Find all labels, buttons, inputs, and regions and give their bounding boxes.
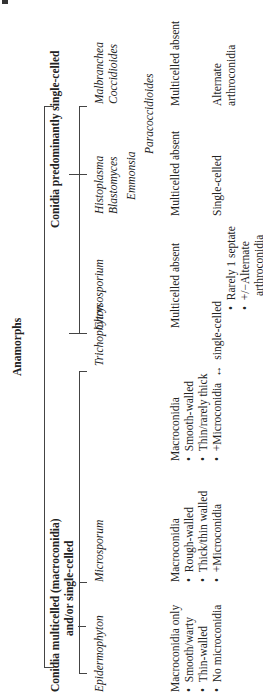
chrysosporium-desc-2: • Rarely 1 septate: [224, 226, 238, 310]
epidermophyton-desc-0: Macroconidia only: [168, 605, 182, 692]
genus-paracoccidioides: Paracoccidioides: [142, 74, 156, 154]
group2-stem-left: [69, 333, 79, 334]
microsporum-desc-2: • Thick/thin walled: [196, 491, 210, 582]
epidermophyton-desc-2: • Thin-walled: [196, 626, 210, 692]
group1-tick-epidermophyton: [79, 673, 87, 674]
genus-epidermophyton: Epidermophyton: [92, 615, 106, 692]
group1-tick-trichophyton: [79, 371, 87, 372]
histoplasma-group-desc-1: Single-celled: [210, 155, 224, 216]
group2-tick-histoplasma: [79, 174, 87, 175]
rotated-diagram-page: Anamorphs Conidia multicelled (macroconi…: [0, 0, 263, 694]
group1-label-line2: and/or single-celled: [62, 541, 76, 636]
trichophyton-desc-3: • +Microconidia ↔ single-celled: [210, 301, 224, 461]
malbranchea-group-desc-0: Multicelled absent: [168, 21, 182, 106]
group1-bracket-line: [79, 371, 80, 674]
trichophyton-desc-2: • Thin/rarely thick: [196, 374, 210, 461]
microsporum-desc-3: • +Microconidia: [210, 504, 224, 582]
microsporum-desc-0: Macroconidia: [168, 518, 182, 582]
trichophyton-desc-0: Macroconidia: [168, 397, 182, 461]
trichophyton-desc-1: • Smooth-walled: [182, 381, 196, 461]
chrysosporium-desc-3: • +/−Alternate: [238, 241, 252, 310]
genus-malbranchea: Malbranchea: [92, 42, 106, 104]
group2-bracket-line: [79, 106, 80, 334]
epidermophyton-desc-3: • No microconidia: [210, 605, 224, 692]
group2-tick-malbranchea: [79, 106, 87, 107]
genus-blastomyces: Blastomyces: [106, 157, 120, 214]
histoplasma-group-desc-0: Multicelled absent: [168, 131, 182, 216]
chrysosporium-desc-0: Multicelled absent: [168, 243, 182, 328]
group2-mid-stem: [69, 174, 79, 175]
group1-tick-microsporum: [79, 582, 87, 583]
genus-chrysosporium: Chrysosporium: [92, 259, 106, 330]
chrysosporium-desc-4: arthroconidia: [252, 235, 263, 296]
genus-histoplasma: Histoplasma: [92, 156, 106, 214]
epidermophyton-desc-1: • Smooth/warty: [182, 617, 196, 692]
page-corner-mark: [2, 0, 8, 4]
bidirectional-arrow-icon: ↔: [211, 366, 223, 378]
group1-label-line1: Conidia multicelled (macroconidia): [48, 518, 62, 692]
genus-emmonsia: Emmonsia: [124, 151, 138, 200]
group2-tick-chrysosporium: [79, 333, 87, 334]
genus-coccidioides: Coccidioides: [106, 44, 120, 104]
root-label: Anamorphs: [10, 318, 24, 376]
genus-microsporum: Microsporum: [92, 520, 106, 582]
malbranchea-group-desc-1: Alternate: [210, 63, 224, 106]
microsporum-desc-1: • Rough-walled: [182, 507, 196, 582]
root-bracket-line: [44, 106, 45, 668]
malbranchea-group-desc-2: arthroconidia: [224, 45, 238, 106]
group2-label: Conidia predominantly single-celled: [48, 51, 62, 228]
